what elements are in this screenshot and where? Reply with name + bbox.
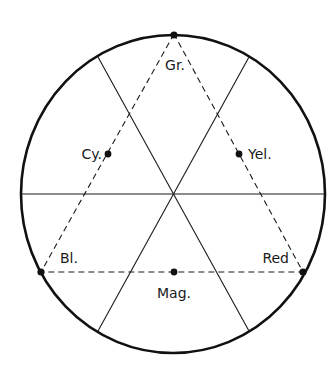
label-red: Red — [262, 250, 289, 266]
label-yellow: Yel. — [247, 146, 272, 162]
color-circle-diagram: Gr. Cy. Yel. Bl. Red Mag. — [0, 0, 335, 367]
label-green: Gr. — [165, 57, 185, 73]
cyan-point — [105, 151, 112, 158]
label-cyan: Cy. — [81, 146, 102, 162]
blue-point — [37, 268, 44, 275]
yellow-point — [236, 151, 243, 158]
label-magenta: Mag. — [157, 285, 191, 301]
red-point — [299, 268, 306, 275]
label-blue: Bl. — [60, 250, 78, 266]
magenta-point — [171, 269, 178, 276]
green-point — [170, 31, 177, 38]
